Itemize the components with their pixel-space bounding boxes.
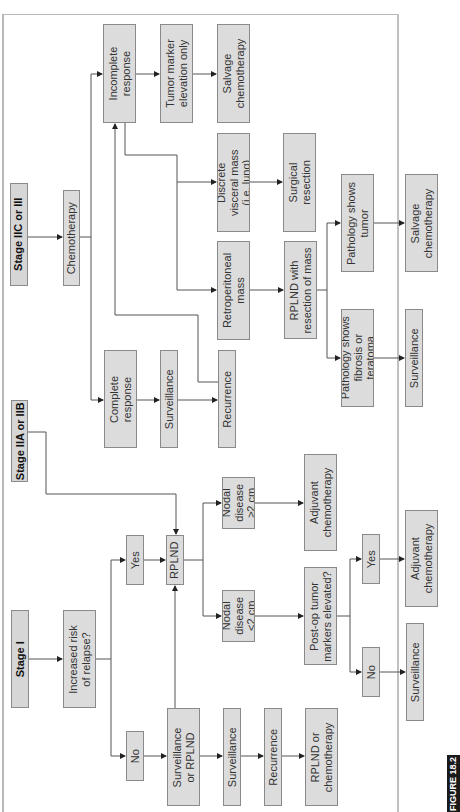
tumor-marker-elevation-box: Tumor marker elevation only xyxy=(160,24,193,123)
surveillance-after-no-markers-box: Surveillance xyxy=(406,623,424,721)
retroperitoneal-mass-box: Retroperitoneal mass xyxy=(217,241,250,340)
adjuvant-chemotherapy-label-2: Adjuvant chemotherapy xyxy=(409,524,434,594)
chemotherapy-box: Chemotherapy xyxy=(63,190,80,286)
figure-label-badge: FIGURE 18.2 xyxy=(447,755,460,812)
incomplete-response-label: Incomplete response xyxy=(107,47,132,101)
surveillance-after-fibrosis-label: Surveillance xyxy=(408,328,421,388)
increased-risk-label: Increased risk of relapse? xyxy=(67,625,92,693)
surveillance-or-rplnd-label: Surveillance or RPLND xyxy=(171,727,196,787)
postop-markers-box: Post-op tumor markers elevated? xyxy=(304,567,337,665)
pathology-tumor-box: Pathology shows tumor xyxy=(341,174,374,272)
pathology-fibrosis-label: Pathology shows fibrosis or teratoma xyxy=(341,316,374,399)
no-risk-box: No xyxy=(126,731,144,781)
yes-risk-box: Yes xyxy=(126,535,144,585)
no-markers-label: No xyxy=(365,665,378,679)
stage-iic-iii-label: Stage IIC or III xyxy=(13,198,26,271)
surgical-resection-label: Surgical resection xyxy=(287,160,312,205)
postop-markers-label: Post-op tumor markers elevated? xyxy=(308,571,333,662)
discrete-visceral-mass-label: Discrete visceral mass (i.e. lung) xyxy=(217,149,250,216)
rplnd-or-chemotherapy-box: RPLND or chemotherapy xyxy=(305,708,338,806)
yes-markers-box: Yes xyxy=(362,534,380,584)
nodal-ge2-label: Nodal disease ≥2 cm xyxy=(222,484,255,522)
complete-response-label: Complete response xyxy=(108,375,133,422)
pathology-tumor-label: Pathology shows tumor xyxy=(345,181,370,264)
rplnd-or-chemotherapy-label: RPLND or chemotherapy xyxy=(309,722,334,792)
figure-label: FIGURE 18.2 xyxy=(449,756,459,810)
surveillance-stage-i-label: Surveillance xyxy=(226,727,239,787)
surveillance-after-complete-box: Surveillance xyxy=(160,350,178,448)
rplnd-with-resection-box: RPLND with resection of mass xyxy=(284,241,317,339)
adjuvant-chemotherapy-box-2: Adjuvant chemotherapy xyxy=(405,510,438,607)
stage-iia-iib-box: Stage IIA or IIB xyxy=(11,400,28,482)
surveillance-stage-i-box: Surveillance xyxy=(223,708,241,806)
recurrence-stage-i-label: Recurrence xyxy=(267,729,280,786)
salvage-chemotherapy-box-2: Salvage chemotherapy xyxy=(405,174,438,272)
rplnd-label: RPLND xyxy=(169,541,182,578)
surveillance-after-fibrosis-box: Surveillance xyxy=(405,309,423,407)
nodal-ge2-box: Nodal disease ≥2 cm xyxy=(222,477,255,529)
no-risk-label: No xyxy=(129,749,142,763)
surveillance-after-complete-label: Surveillance xyxy=(163,369,176,429)
adjuvant-chemotherapy-box-1: Adjuvant chemotherapy xyxy=(304,454,337,551)
increased-risk-box: Increased risk of relapse? xyxy=(63,610,96,708)
chemotherapy-label: Chemotherapy xyxy=(65,202,78,274)
incomplete-response-box: Incomplete response xyxy=(103,24,136,123)
stage-iia-iib-label: Stage IIA or IIB xyxy=(13,402,26,480)
tumor-marker-elevation-label: Tumor marker elevation only xyxy=(164,39,189,108)
nodal-lt2-label: Nodal disease <2 cm xyxy=(222,597,255,635)
complete-response-box: Complete response xyxy=(104,350,137,448)
yes-risk-label: Yes xyxy=(129,551,142,569)
stage-iic-iii-box: Stage IIC or III xyxy=(10,183,28,286)
adjuvant-chemotherapy-label-1: Adjuvant chemotherapy xyxy=(308,468,333,538)
nodal-lt2-box: Nodal disease <2 cm xyxy=(222,590,255,642)
stage-i-box: Stage I xyxy=(11,610,29,708)
rplnd-with-resection-label: RPLND with resection of mass xyxy=(288,247,313,333)
pathology-fibrosis-box: Pathology shows fibrosis or teratoma xyxy=(341,309,374,407)
recurrence-after-complete-label: Recurrence xyxy=(221,371,234,428)
stage-i-label: Stage I xyxy=(14,641,27,677)
surveillance-after-no-markers-label: Surveillance xyxy=(409,642,422,702)
retroperitoneal-mass-label: Retroperitoneal mass xyxy=(221,253,246,328)
salvage-chemotherapy-box-1: Salvage chemotherapy xyxy=(217,24,250,123)
yes-markers-label: Yes xyxy=(365,550,378,568)
recurrence-after-complete-box: Recurrence xyxy=(218,350,236,448)
salvage-chemotherapy-label-2: Salvage chemotherapy xyxy=(409,188,434,258)
rplnd-box: RPLND xyxy=(166,535,184,585)
surveillance-or-rplnd-box: Surveillance or RPLND xyxy=(167,708,200,806)
recurrence-stage-i-box: Recurrence xyxy=(264,708,282,806)
discrete-visceral-mass-box: Discrete visceral mass (i.e. lung) xyxy=(217,133,250,232)
no-markers-box: No xyxy=(362,647,380,697)
surgical-resection-box: Surgical resection xyxy=(283,133,316,232)
salvage-chemotherapy-label-1: Salvage chemotherapy xyxy=(221,39,246,109)
